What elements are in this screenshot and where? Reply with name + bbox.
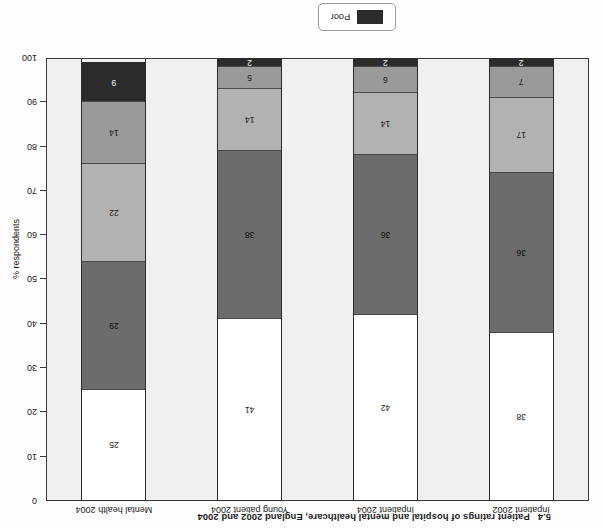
bar-segment[interactable]: 42	[354, 315, 417, 501]
bar-segment[interactable]: 6	[354, 67, 417, 94]
stacked-bar[interactable]: 38361772	[489, 58, 554, 501]
legend-poor-label: Poor	[331, 12, 350, 22]
bar-segment-value: 9	[111, 78, 116, 87]
bar-segment[interactable]: 14	[218, 89, 281, 151]
bar-segment-value: 14	[245, 115, 255, 124]
bar-segment[interactable]: 2	[218, 58, 281, 67]
bar-segment[interactable]: 17	[490, 98, 553, 173]
y-axis-tick	[40, 411, 46, 412]
y-axis-tick	[40, 279, 46, 280]
bar-segment[interactable]: 22	[82, 164, 145, 261]
bar-segment-value: 14	[381, 120, 391, 129]
y-axis-tick-label: 40	[27, 319, 37, 329]
y-axis-tick	[40, 234, 46, 235]
y-axis-tick-label: 30	[27, 363, 37, 373]
bar-segment-value: 7	[519, 78, 524, 87]
category-label: Inpatient 2004	[318, 505, 454, 515]
bar-segment[interactable]: 36	[354, 155, 417, 314]
y-axis-tick-label: 20	[27, 407, 37, 417]
bar-segment[interactable]: 2	[490, 58, 553, 67]
category-label: Mental health 2004	[46, 505, 182, 515]
bar-segment[interactable]: 5	[218, 67, 281, 89]
y-axis-tick	[40, 101, 46, 102]
bar-segment[interactable]: 14	[82, 102, 145, 164]
y-axis-tick	[40, 456, 46, 457]
y-axis-tick	[40, 367, 46, 368]
legend-poor-swatch	[357, 10, 383, 24]
legend: Poor	[318, 3, 396, 31]
bar-group: 42361462	[318, 58, 454, 501]
y-axis-tick-label: 0	[32, 496, 37, 506]
bar-segment-value: 17	[516, 131, 526, 140]
y-axis: % respondents 0102030405060708090100	[0, 58, 46, 501]
y-axis-tick-label: 100	[22, 53, 37, 63]
y-axis-tick	[40, 190, 46, 191]
y-axis-tick-label: 90	[27, 97, 37, 107]
bar-group: 252922149	[46, 58, 182, 501]
category-label: Inpatient 2002	[453, 505, 589, 515]
bar-segment-value: 36	[516, 248, 526, 257]
bar-segment-value: 22	[109, 208, 119, 217]
y-axis-tick-label: 50	[27, 275, 37, 285]
y-axis-tick	[40, 323, 46, 324]
bar-segment-value: 2	[383, 58, 388, 67]
y-axis-tick-label: 70	[27, 186, 37, 196]
rotated-figure-wrapper: 5.4Patient ratings of hospital and menta…	[0, 0, 603, 529]
bar-segment-value: 2	[247, 58, 252, 67]
bar-segment-value: 14	[109, 129, 119, 138]
bar-segment[interactable]: 2	[354, 58, 417, 67]
stacked-bar[interactable]: 252922149	[81, 58, 146, 501]
bar-segment-value: 2	[519, 58, 524, 67]
stacked-bar[interactable]: 41381452	[217, 58, 282, 501]
bar-segment-value: 25	[109, 441, 119, 450]
bar-segment[interactable]: 41	[218, 319, 281, 501]
y-axis-tick-label: 80	[27, 142, 37, 152]
bar-segment[interactable]: 7	[490, 67, 553, 98]
bar-segment-value: 41	[245, 405, 255, 414]
category-label: Young patient 2004	[182, 505, 318, 515]
bar-segment[interactable]: 9	[82, 62, 145, 102]
bar-segment-value: 29	[109, 321, 119, 330]
category-label-row: Inpatient 2002Inpatient 2004Young patien…	[46, 502, 589, 515]
bar-segment[interactable]: 38	[490, 333, 553, 501]
bar-segment-value: 5	[247, 73, 252, 82]
y-axis-tick-label: 10	[27, 452, 37, 462]
bar-group: 41381452	[182, 58, 318, 501]
y-axis-title: % respondents	[11, 219, 21, 279]
bar-group: 38361772	[453, 58, 589, 501]
bar-segment-value: 38	[245, 230, 255, 239]
bar-segment-value: 38	[516, 412, 526, 421]
plot-area: 383617724236146241381452252922149	[46, 58, 589, 501]
bar-segment-value: 36	[381, 230, 391, 239]
bar-segment[interactable]: 25	[82, 390, 145, 501]
bar-segment[interactable]: 14	[354, 93, 417, 155]
bar-segment-value: 42	[381, 403, 391, 412]
y-axis-tick	[40, 146, 46, 147]
bar-segment-value: 6	[383, 75, 388, 84]
chart-figure: 5.4Patient ratings of hospital and menta…	[0, 0, 603, 529]
stacked-bar[interactable]: 42361462	[353, 58, 418, 501]
bar-segment[interactable]: 29	[82, 262, 145, 390]
bar-segment[interactable]: 38	[218, 151, 281, 319]
y-axis-tick-label: 60	[27, 230, 37, 240]
bar-segment[interactable]: 36	[490, 173, 553, 332]
